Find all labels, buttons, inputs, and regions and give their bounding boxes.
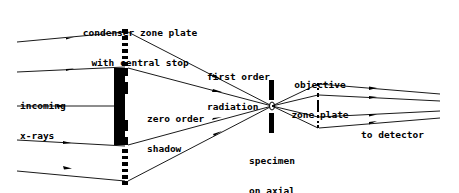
specimen-label: specimen on axial aperture <box>242 136 302 193</box>
detector-label: to detector <box>361 130 424 140</box>
objective-label-line2: zone plate <box>290 110 350 120</box>
incoming-label-line1: incoming <box>20 101 66 111</box>
specimen-label-line2: on axial <box>242 186 302 193</box>
objective-label-line1: objective <box>290 80 350 90</box>
zero-order-label: zero order shadow <box>147 94 204 164</box>
specimen-label-line1: specimen <box>242 156 302 166</box>
objective-label: objective zone plate <box>290 60 350 130</box>
detector-arrowheads <box>369 87 377 125</box>
condenser-label-line2: with central stop <box>66 58 214 68</box>
central-stop <box>114 68 128 145</box>
condenser-label: condenser zone plate with central stop <box>66 8 214 78</box>
incoming-label: incoming x-rays <box>20 81 66 151</box>
first-order-label: first order radiation <box>207 52 270 122</box>
first-order-label-line2: radiation <box>207 102 270 112</box>
zero-order-label-line1: zero order <box>147 114 204 124</box>
incoming-label-line2: x-rays <box>20 131 66 141</box>
condenser-label-line1: condenser zone plate <box>66 28 214 38</box>
first-order-label-line1: first order <box>207 72 270 82</box>
zero-order-label-line2: shadow <box>147 144 204 154</box>
